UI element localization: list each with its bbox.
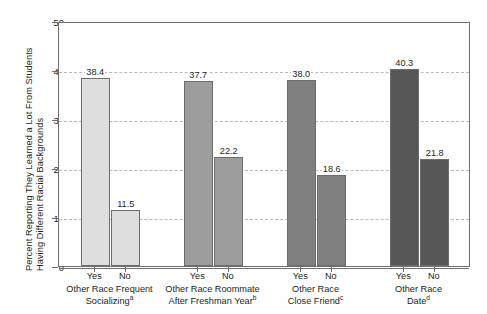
x-axis-group-label-line: Other Race — [288, 284, 343, 296]
x-axis-group-label-line: Close Friendc — [288, 296, 343, 308]
x-axis-tick-mark — [331, 267, 332, 272]
x-axis-category-label: Yes — [87, 271, 102, 281]
x-axis-category-label: Yes — [396, 271, 411, 281]
x-axis: YesNoOther Race FrequentSocializingaYesN… — [58, 267, 470, 314]
y-axis-title-line-2: Having Different Racial Backgrounds — [35, 118, 45, 271]
y-axis-title: Percent Reporting They Learned a Lot Fro… — [14, 22, 44, 272]
bar-value-label: 11.5 — [116, 199, 135, 209]
x-axis-category-label: No — [222, 271, 234, 281]
footnote-marker: d — [426, 293, 430, 300]
bar-value-label: 22.2 — [219, 146, 239, 156]
x-axis-tick-mark — [197, 267, 198, 272]
x-axis-category-label: No — [325, 271, 337, 281]
y-axis-title-line-1: Percent Reporting They Learned a Lot Fro… — [24, 47, 34, 271]
footnote-marker: b — [253, 293, 257, 300]
bar — [214, 157, 243, 266]
x-axis-group-label-line: Socializinga — [66, 296, 152, 308]
bar — [390, 69, 419, 266]
footnote-marker: c — [340, 293, 343, 300]
x-axis-tick-mark — [434, 267, 435, 272]
footnote-marker: a — [130, 293, 134, 300]
x-axis-category-label: Yes — [190, 271, 205, 281]
x-axis-tick-mark — [94, 267, 95, 272]
x-axis-tick-mark — [300, 267, 301, 272]
bar-value-label: 38.0 — [291, 69, 311, 79]
x-axis-tick-mark — [403, 267, 404, 272]
bar-value-label: 38.4 — [85, 67, 105, 77]
x-axis-group-label-line: Other Race Roommate — [165, 284, 259, 296]
x-axis-tick-mark — [125, 267, 126, 272]
bar-value-label: 18.6 — [322, 164, 342, 174]
x-axis-group-label: Other RaceClose Friendc — [288, 284, 343, 307]
bar — [317, 175, 346, 266]
x-axis-category-label: Yes — [293, 271, 308, 281]
bar — [111, 210, 140, 266]
bar-value-label: 40.3 — [394, 58, 414, 68]
x-axis-group-label-line: Other Race — [395, 284, 442, 296]
bar — [184, 81, 213, 266]
x-axis-group-label-line: After Freshman Yearb — [165, 296, 259, 308]
plot-inner: 38.411.537.722.238.018.640.321.8 — [59, 23, 469, 266]
plot-area: 38.411.537.722.238.018.640.321.8 — [58, 22, 470, 267]
bar-value-label: 37.7 — [188, 70, 208, 80]
x-axis-group-label: Other RaceDated — [395, 284, 442, 307]
x-axis-category-label: No — [119, 271, 131, 281]
bar — [420, 159, 449, 266]
bar — [287, 80, 316, 266]
x-axis-group-label: Other Race FrequentSocializinga — [66, 284, 152, 307]
x-axis-group-label-line: Dated — [395, 296, 442, 308]
x-axis-tick-mark — [228, 267, 229, 272]
x-axis-category-label: No — [428, 271, 440, 281]
bar-value-label: 21.8 — [425, 148, 445, 158]
bar-chart: Percent Reporting They Learned a Lot Fro… — [0, 0, 487, 314]
x-axis-group-label-line: Other Race Frequent — [66, 284, 152, 296]
bar — [81, 78, 110, 266]
x-axis-group-label: Other Race RoommateAfter Freshman Yearb — [165, 284, 259, 307]
